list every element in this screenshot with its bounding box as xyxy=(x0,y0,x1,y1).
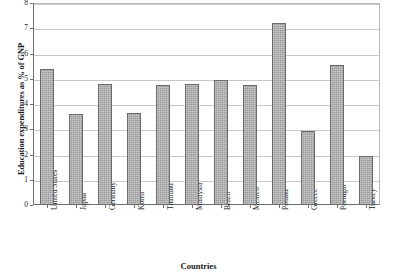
bar xyxy=(98,84,112,205)
y-tick-mark xyxy=(30,205,33,206)
bar xyxy=(156,85,170,205)
x-tick-mark xyxy=(308,205,309,208)
bar xyxy=(272,23,286,205)
x-tick-mark xyxy=(105,205,106,208)
x-axis-title: Countries xyxy=(0,261,397,271)
bar xyxy=(40,69,54,205)
gridline xyxy=(34,181,379,182)
x-tick-mark xyxy=(250,205,251,208)
y-tick-label: 0 xyxy=(12,201,28,209)
y-tick-label: 8 xyxy=(12,0,28,7)
x-tick-mark xyxy=(134,205,135,208)
x-tick-mark xyxy=(192,205,193,208)
x-tick-mark xyxy=(337,205,338,208)
y-tick-label: 4 xyxy=(12,100,28,108)
bar xyxy=(301,131,315,205)
x-tick-mark xyxy=(366,205,367,208)
y-tick-label: 6 xyxy=(12,50,28,58)
bar xyxy=(359,156,373,205)
x-tick-mark xyxy=(47,205,48,208)
y-tick-label: 5 xyxy=(12,75,28,83)
gridline xyxy=(34,156,379,157)
y-tick-label: 2 xyxy=(12,151,28,159)
bar xyxy=(69,114,83,205)
bar xyxy=(127,113,141,205)
bar xyxy=(330,65,344,205)
plot-area xyxy=(33,3,380,205)
gridline xyxy=(34,80,379,81)
gridline xyxy=(34,55,379,56)
gridline xyxy=(34,105,379,106)
y-tick-label: 7 xyxy=(12,24,28,32)
x-tick-mark xyxy=(163,205,164,208)
bar-chart: Education expenditures as % of GNP 01234… xyxy=(0,0,397,278)
gridline xyxy=(34,130,379,131)
bar xyxy=(185,84,199,205)
bar xyxy=(214,80,228,205)
y-tick-label: 1 xyxy=(12,176,28,184)
gridline xyxy=(34,4,379,5)
x-tick-mark xyxy=(76,205,77,208)
x-tick-mark xyxy=(279,205,280,208)
gridline xyxy=(34,29,379,30)
y-tick-label: 3 xyxy=(12,125,28,133)
bar xyxy=(243,85,257,205)
x-tick-mark xyxy=(221,205,222,208)
